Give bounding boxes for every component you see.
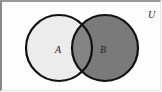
universe-label: U xyxy=(148,9,156,20)
set-a-label: A xyxy=(54,44,62,55)
venn-diagram: A B U xyxy=(0,0,162,92)
set-b-label: B xyxy=(100,44,106,55)
